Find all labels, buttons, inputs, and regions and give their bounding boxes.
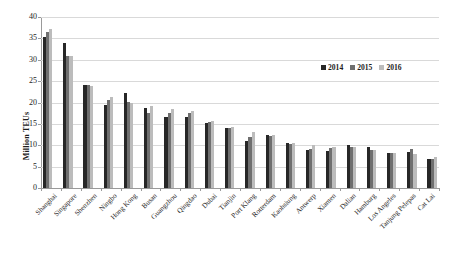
bar-2016 [231, 127, 234, 188]
y-tick-label: 35 [29, 34, 37, 42]
bar-2016 [49, 29, 52, 188]
bar-group [225, 17, 234, 188]
bar-2016 [69, 56, 72, 188]
plot-area: 0510152025303540 [41, 17, 439, 188]
bar-group [83, 17, 92, 188]
y-tick-label: 0 [33, 184, 37, 192]
legend-swatch-icon [379, 65, 384, 70]
bar-group [407, 17, 416, 188]
legend-label: 2015 [357, 63, 372, 72]
bar-group [164, 17, 173, 188]
bar-2016 [191, 111, 194, 188]
bar-groups [41, 17, 439, 188]
bar-2016 [393, 153, 396, 188]
bar-group [144, 17, 153, 188]
legend-item-2014: 2014 [321, 63, 343, 72]
x-tick-label: Xiamen [316, 192, 338, 214]
bar-group [286, 17, 295, 188]
y-tick-label: 40 [29, 13, 37, 21]
legend-label: 2014 [328, 63, 343, 72]
legend-item-2015: 2015 [350, 63, 372, 72]
y-tick-label: 20 [29, 99, 37, 107]
bar-2016 [434, 157, 437, 188]
legend: 2014 2015 2016 [321, 63, 402, 72]
x-tick-label: Antwerp [294, 192, 317, 215]
bar-group [63, 17, 72, 188]
x-tick-mark [439, 188, 440, 191]
bar-2016 [292, 143, 295, 188]
legend-swatch-icon [321, 65, 326, 70]
x-axis-labels: ShanghaiSingaporeShenzhenNingboHong Kong… [41, 190, 439, 270]
bar-2016 [272, 135, 275, 188]
y-tick-label: 25 [29, 77, 37, 85]
y-tick-label: 15 [29, 120, 37, 128]
bar-group [104, 17, 113, 188]
bar-group [43, 17, 52, 188]
legend-swatch-icon [350, 65, 355, 70]
y-tick-label: 30 [29, 56, 37, 64]
bar-2016 [332, 147, 335, 188]
bar-2016 [130, 103, 133, 188]
bar-group [205, 17, 214, 188]
bar-group [245, 17, 254, 188]
bar-2016 [312, 145, 315, 188]
bar-group [266, 17, 275, 188]
bar-group [185, 17, 194, 188]
bar-group [367, 17, 376, 188]
bar-2016 [110, 97, 113, 188]
y-tick-label: 5 [33, 163, 37, 171]
legend-item-2016: 2016 [379, 63, 401, 72]
bar-2016 [353, 147, 356, 188]
bar-group [347, 17, 356, 188]
bar-2016 [413, 154, 416, 188]
x-tick-label: Dubai [200, 192, 218, 210]
legend-label: 2016 [386, 63, 401, 72]
bar-group [306, 17, 315, 188]
bar-2016 [211, 121, 214, 188]
bar-2016 [90, 86, 93, 188]
bar-chart: Million TEUs 0510152025303540 ShanghaiSi… [0, 0, 454, 271]
bar-group [427, 17, 436, 188]
bar-group [387, 17, 396, 188]
y-tick-label: 10 [29, 141, 37, 149]
x-tick-label: Tanjung Pelepas [378, 192, 417, 231]
bar-2016 [373, 150, 376, 188]
bar-2016 [150, 106, 153, 188]
bar-group [326, 17, 335, 188]
bar-2016 [171, 109, 174, 188]
x-tick-label: Cat Lai [416, 192, 437, 213]
x-tick-label: Qingdao [175, 192, 198, 215]
bar-group [124, 17, 133, 188]
bar-2016 [252, 132, 255, 188]
